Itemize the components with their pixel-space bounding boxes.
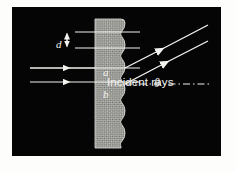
diagram-plate: d a b Incident rays θ — [12, 7, 221, 156]
figure-root: d a b Incident rays θ — [0, 0, 236, 172]
label-incident-rays: Incident rays — [107, 77, 174, 89]
label-angle-theta: θ — [154, 77, 160, 89]
label-spacing-d: d — [56, 39, 62, 50]
label-ray-b: b — [103, 89, 109, 100]
